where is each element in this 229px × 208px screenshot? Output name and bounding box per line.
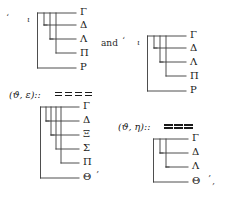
tree-top-right-bracket-lines [146,35,192,97]
tree-bottom-left-leaf-4: Π [83,157,92,167]
open-quote-mark-1: ‘ [6,13,9,23]
tree-top-right-root-symbol: ι [137,39,140,47]
equals-mark [75,92,82,93]
tree-bottom-right: Γ Δ Λ Θ ’ , [152,138,198,192]
tree-bottom-left-bracket-lines [39,106,89,186]
tree-top-left-bracket-lines [36,12,82,74]
tree-top-right-leaf-0: Γ [190,30,197,40]
tree-top-left-leaf-1: Δ [80,20,87,30]
tree-top-left-leaf-3: Π [80,48,89,58]
tree-bottom-right-leaf-1: Δ [192,147,199,157]
open-quote-mark-2: ‘ [122,36,125,46]
tree-bottom-right-leaf-3: Θ [192,176,200,186]
tree-top-left-leaf-2: Λ [80,34,87,44]
tree-top-right-leaf-2: Λ [190,57,197,67]
equals-mark [65,92,72,93]
equals-mark [164,124,173,126]
page-canvas: ‘ ι Γ Δ Λ Π [0,0,229,208]
tree-bottom-left-leaf-0: Γ [83,101,90,111]
tree-top-right-leaf-4: P [190,85,197,95]
close-quote-mark-1: ’ [96,170,99,180]
equals-mark [55,92,62,93]
tree-top-right: ι Γ Δ Λ Π P [146,35,192,97]
equals-mark [184,124,193,126]
tree-bottom-left-leaf-5: Θ [83,172,91,182]
trailing-comma: , [212,176,215,186]
equals-mark [174,124,183,126]
tree-bottom-right-leaf-0: Γ [192,133,199,143]
close-quote-mark-2: ’ [208,174,211,184]
tree-top-left: ι Γ Δ Λ Π P [36,12,82,74]
tree-top-right-leaf-3: Π [190,71,199,81]
tree-bottom-left-leaf-3: Σ [83,143,90,153]
equals-mark [85,92,92,93]
tree-top-left-root-symbol: ι [27,16,30,24]
conjunction-and: and [101,39,118,48]
tree-top-left-leaf-4: P [80,62,87,72]
formula-theta-eta-relation-marks [164,124,193,126]
formula-theta-eta-label: (ϑ, η):: [118,122,150,132]
tree-bottom-right-leaf-2: Λ [192,161,199,171]
formula-theta-epsilon-relation-marks [55,92,92,93]
tree-top-left-leaf-0: Γ [80,7,87,17]
tree-bottom-left-leaf-1: Δ [83,115,90,125]
tree-bottom-left-leaf-2: Ξ [83,129,90,139]
tree-top-right-leaf-1: Δ [190,43,197,53]
formula-theta-epsilon-label: (ϑ, ε):: [9,90,41,100]
tree-bottom-left: Γ Δ Ξ Σ Π Θ ’ [39,106,89,186]
